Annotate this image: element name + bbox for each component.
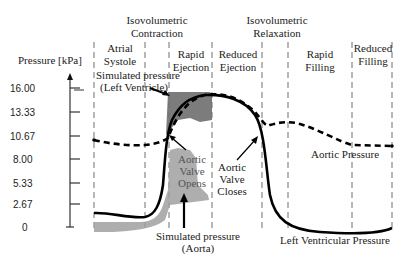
simulated-lv-band [166,92,212,135]
tick-label: 16.00 [10,83,35,94]
tick-label: 2.67 [13,199,33,210]
annotation-valve-opens: Aortic [178,153,206,165]
lv-pressure-label: Left Ventricular Pressure [280,234,390,246]
tick-label: 5.33 [13,178,33,189]
data-point [390,144,394,148]
tick-label: 8.00 [13,154,33,165]
annotation-valve-closes: Closes [217,185,246,197]
y-axis [66,78,80,227]
tick-label: 13.33 [10,107,35,118]
tick-label: 10.67 [10,131,35,142]
phase-label-reduced-filling: Reduced [354,42,393,54]
phase-label-iso-contraction: Contraction [131,27,183,39]
pressure-chart: 16.00 13.33 10.67 8.00 5.33 2.67 0 Press… [0,0,416,267]
annotation-valve-closes: Aortic [218,161,246,173]
annotation-sim-lv: Simulated pressure [96,69,180,81]
phase-label-reduced-ejection: Reduced [219,48,258,60]
annotation-valve-closes: Valve [219,173,244,185]
phase-label-reduced-filling: Filling [358,55,388,67]
y-axis-arrow-icon [67,73,73,80]
arrow-icon [237,140,255,160]
annotation-sim-aorta: Simulated pressure [156,230,240,242]
annotation-sim-aorta: (Aorta) [182,242,215,255]
phase-label-atrial-systole: Atrial [107,42,133,54]
aortic-pressure-label: Aortic Pressure [311,148,379,160]
phase-label-atrial-systole: Systole [104,55,137,67]
phase-label-iso-relaxation: Isovolumetric [246,14,307,26]
phase-label-iso-relaxation: Relaxation [253,27,301,39]
y-axis-label: Pressure [kPa] [18,54,82,66]
annotation-valve-opens: Opens [178,177,206,189]
phase-label-rapid-filling: Rapid [307,48,334,60]
phase-label-rapid-filling: Filling [305,61,335,73]
data-point [92,138,96,142]
tick-label: 0 [22,222,28,233]
annotation-valve-opens: Valve [179,165,204,177]
phase-label-rapid-ejection: Rapid [178,48,205,60]
phase-label-reduced-ejection: Ejection [220,61,257,73]
phase-label-iso-contraction: Isovolumetric [126,14,187,26]
